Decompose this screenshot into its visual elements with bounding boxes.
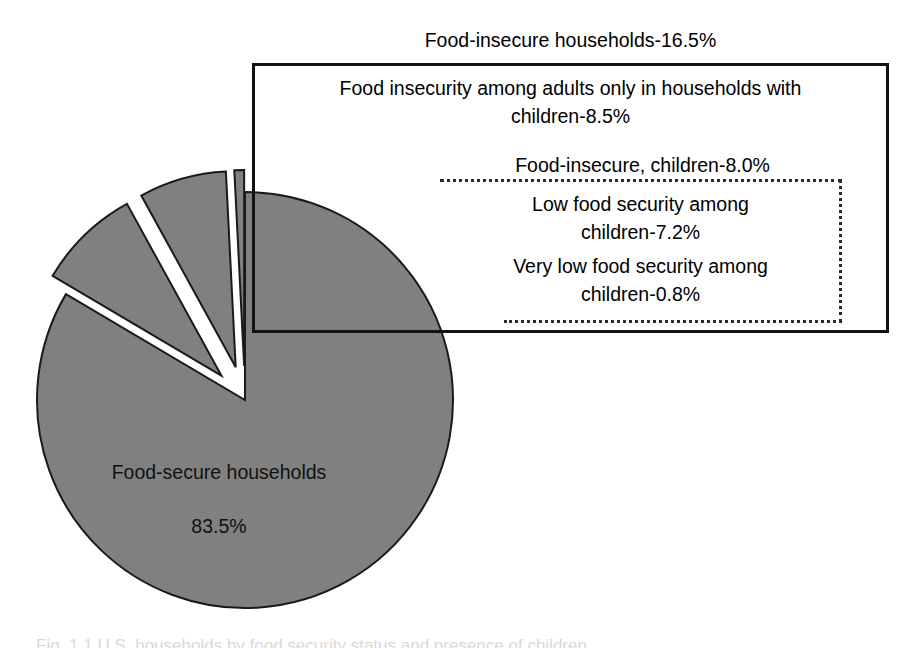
very-low-food-security-line2: children-0.8%	[448, 280, 833, 308]
very-low-food-security-children-label: Very low food security among children-0.…	[448, 252, 833, 308]
pie-label-line2: 83.5%	[54, 513, 384, 540]
low-food-security-line1: Low food security among	[448, 190, 833, 218]
very-low-food-security-line1: Very low food security among	[448, 252, 833, 280]
pie-slice-very-low-food-security-children[interactable]	[234, 170, 244, 366]
dotted-box-bottom-edge	[504, 320, 842, 323]
food-insecure-children-heading: Food-insecure, children-8.0%	[440, 152, 845, 178]
pie-slice-label-food-secure: Food-secure households 83.5%	[54, 432, 384, 567]
adults-only-label: Food insecurity among adults only in hou…	[262, 74, 879, 130]
callout-title: Food-insecure households-16.5%	[252, 28, 889, 52]
dotted-box-right-edge	[839, 179, 842, 323]
figure-caption: Fig. 1.1 U.S. households by food securit…	[36, 636, 886, 648]
low-food-security-children-label: Low food security among children-7.2%	[448, 190, 833, 246]
low-food-security-line2: children-7.2%	[448, 218, 833, 246]
adults-only-line1: Food insecurity among adults only in hou…	[262, 74, 879, 102]
figure-canvas: Food-secure households 83.5% Food-insecu…	[0, 0, 920, 648]
adults-only-line2: children-8.5%	[262, 102, 879, 130]
dotted-box-top-edge	[440, 179, 842, 182]
pie-label-line1: Food-secure households	[54, 459, 384, 486]
